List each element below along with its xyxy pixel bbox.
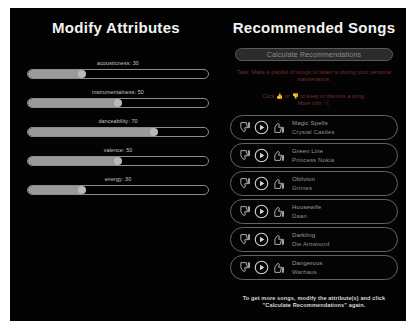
- play-icon[interactable]: [253, 231, 270, 248]
- play-icon[interactable]: [253, 175, 270, 192]
- slider-label-danceability: danceability: 70: [27, 118, 209, 124]
- song-meta: OblivionGrimes: [292, 175, 315, 192]
- slider-label-instrumentalness: instrumentalness: 50: [27, 89, 209, 95]
- song-artist: Crystal Castles: [292, 128, 335, 137]
- click-instructions: Click 👍 or 👎 to keep or dismiss a song. …: [230, 93, 398, 107]
- song-title: Darkling: [292, 231, 330, 240]
- slider-label-valence: valence: 50: [27, 147, 209, 153]
- slider-acousticness[interactable]: [27, 69, 209, 79]
- slider-row-valence: valence: 50: [27, 147, 209, 166]
- slider-instrumentalness[interactable]: [27, 98, 209, 108]
- slider-thumb-energy[interactable]: [78, 186, 86, 194]
- calculate-recommendations-label: Calculate Recommendations: [267, 51, 362, 58]
- thumbs-up-icon[interactable]: [270, 119, 287, 136]
- thumbs-up-icon[interactable]: [270, 259, 287, 276]
- song-artist: Grimes: [292, 184, 315, 193]
- slider-label-energy: energy: 30: [27, 176, 209, 182]
- slider-valence[interactable]: [27, 156, 209, 166]
- slider-fill-energy: [28, 186, 82, 194]
- slider-thumb-danceability[interactable]: [150, 128, 158, 136]
- thumbs-up-icon[interactable]: [270, 175, 287, 192]
- song-meta: HousewifeDaan: [292, 203, 321, 220]
- thumbs-up-icon: 👍: [276, 93, 283, 99]
- play-icon[interactable]: [253, 119, 270, 136]
- song-list: Magic SpellsCrystal CastlesGreen LinePri…: [230, 115, 398, 283]
- song-card[interactable]: HousewifeDaan: [230, 199, 398, 224]
- app-root: Modify Attributes acousticness: 30instru…: [10, 8, 406, 321]
- thumbs-up-icon[interactable]: [270, 147, 287, 164]
- slider-label-acousticness: acousticness: 30: [27, 60, 209, 66]
- song-title: Oblivion: [292, 175, 315, 184]
- thumbs-up-icon[interactable]: [270, 231, 287, 248]
- page-title-recommended-songs: Recommended Songs: [222, 19, 406, 36]
- song-artist: Daan: [292, 212, 321, 221]
- slider-row-instrumentalness: instrumentalness: 50: [27, 89, 209, 108]
- recommended-songs-panel: Recommended Songs Calculate Recommendati…: [222, 8, 406, 321]
- song-meta: Green LinePrincess Nokia: [292, 147, 334, 164]
- slider-fill-valence: [28, 157, 118, 165]
- calculate-recommendations-button[interactable]: Calculate Recommendations: [235, 48, 393, 61]
- modify-attributes-panel: Modify Attributes acousticness: 30instru…: [10, 8, 222, 321]
- thumbs-down-icon[interactable]: [236, 231, 253, 248]
- thumbs-up-icon[interactable]: [270, 203, 287, 220]
- page-title-modify-attributes: Modify Attributes: [10, 19, 222, 36]
- slider-fill-danceability: [28, 128, 154, 136]
- slider-danceability[interactable]: [27, 127, 209, 137]
- slider-fill-instrumentalness: [28, 99, 118, 107]
- click-text-before: Click: [262, 93, 274, 99]
- song-meta: DarklingDie Antwoord: [292, 231, 330, 248]
- song-card[interactable]: DarklingDie Antwoord: [230, 227, 398, 252]
- info-icon[interactable]: ⓘ: [324, 100, 330, 106]
- song-artist: Die Antwoord: [292, 240, 330, 249]
- song-card[interactable]: Magic SpellsCrystal Castles: [230, 115, 398, 140]
- thumbs-down-icon[interactable]: [236, 175, 253, 192]
- thumbs-down-icon: 👎: [292, 93, 299, 99]
- task-description: Task: Make a playlist of songs to listen…: [230, 69, 398, 83]
- footer-note: To get more songs, modify the attribute(…: [230, 295, 398, 310]
- song-title: Dangerous: [292, 259, 323, 268]
- song-card[interactable]: DangerousWarhaus: [230, 255, 398, 280]
- slider-thumb-acousticness[interactable]: [78, 70, 86, 78]
- thumbs-down-icon[interactable]: [236, 119, 253, 136]
- slider-row-energy: energy: 30: [27, 176, 209, 195]
- song-meta: Magic SpellsCrystal Castles: [292, 119, 335, 136]
- play-icon[interactable]: [253, 147, 270, 164]
- thumbs-down-icon[interactable]: [236, 259, 253, 276]
- slider-energy[interactable]: [27, 185, 209, 195]
- play-icon[interactable]: [253, 203, 270, 220]
- click-text-after: to keep or dismiss a song.: [300, 93, 365, 99]
- thumbs-down-icon[interactable]: [236, 203, 253, 220]
- slider-fill-acousticness: [28, 70, 82, 78]
- click-text-middle: or: [285, 93, 290, 99]
- slider-thumb-valence[interactable]: [114, 157, 122, 165]
- more-info-label: More info:: [298, 100, 323, 106]
- song-card[interactable]: OblivionGrimes: [230, 171, 398, 196]
- song-title: Green Line: [292, 147, 334, 156]
- song-artist: Warhaus: [292, 268, 323, 277]
- slider-row-acousticness: acousticness: 30: [27, 60, 209, 79]
- song-title: Housewife: [292, 203, 321, 212]
- song-card[interactable]: Green LinePrincess Nokia: [230, 143, 398, 168]
- song-artist: Princess Nokia: [292, 156, 334, 165]
- thumbs-down-icon[interactable]: [236, 147, 253, 164]
- play-icon[interactable]: [253, 259, 270, 276]
- song-meta: DangerousWarhaus: [292, 259, 323, 276]
- slider-row-danceability: danceability: 70: [27, 118, 209, 137]
- slider-thumb-instrumentalness[interactable]: [114, 99, 122, 107]
- song-title: Magic Spells: [292, 119, 335, 128]
